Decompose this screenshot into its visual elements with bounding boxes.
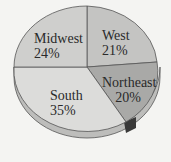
label-west: West 21% <box>102 28 130 58</box>
label-west-name: West <box>102 28 130 43</box>
label-midwest: Midwest 24% <box>34 31 83 61</box>
label-midwest-name: Midwest <box>34 31 83 46</box>
label-midwest-pct: 24% <box>34 46 83 61</box>
label-northeast-pct: 20% <box>102 90 154 105</box>
label-south-pct: 35% <box>50 103 83 118</box>
label-south-name: South <box>50 88 83 103</box>
label-west-pct: 21% <box>102 43 130 58</box>
label-south: South 35% <box>50 88 83 118</box>
label-northeast-name: Northeast <box>102 75 154 90</box>
label-northeast: Northeast 20% <box>102 75 154 105</box>
